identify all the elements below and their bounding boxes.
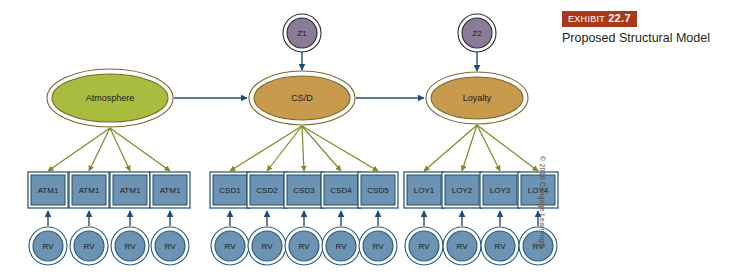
loading-arrow [302, 126, 304, 171]
loading-arrow [89, 128, 110, 171]
exhibit-figure: ATM1ATM1ATM1ATM1CSD1CSD2CSD3CSD4CSD5LOY1… [0, 0, 730, 278]
indicator-csd4: CSD4 [321, 172, 361, 208]
indicator-loy4: LOY4 [518, 172, 558, 208]
exhibit-header: EXHIBIT 22.7 Proposed Structural Model [562, 8, 722, 46]
construct-loyalty: Loyalty [426, 72, 528, 124]
residual-label: RV [84, 242, 96, 251]
residual-circle: RV [211, 227, 249, 265]
residual-label: RV [457, 242, 469, 251]
residual-circle: RV [111, 227, 149, 265]
residual-circle: RV [322, 227, 360, 265]
residual-label: RV [43, 242, 55, 251]
indicator-csd2: CSD2 [247, 172, 287, 208]
loading-arrow [302, 126, 341, 171]
loading-arrow [230, 126, 302, 171]
indicator-label: CSD3 [293, 186, 315, 195]
residual-circles: RVRVRVRVRVRVRVRVRVRVRVRVRV [29, 227, 557, 265]
indicator-label: CSD2 [256, 186, 278, 195]
indicator-label: LOY2 [452, 186, 473, 195]
disturbance-arrows [302, 52, 477, 71]
loading-arrow [477, 125, 500, 171]
indicator-label: CSD5 [367, 186, 389, 195]
residual-circle: RV [248, 227, 286, 265]
residual-label: RV [125, 242, 137, 251]
indicator-label: LOY1 [414, 186, 435, 195]
residual-label: RV [336, 242, 348, 251]
loading-arrow [302, 126, 378, 171]
indicator-label: ATM1 [160, 186, 181, 195]
disturbance-label: Z1 [297, 29, 307, 38]
loading-arrow [267, 126, 302, 171]
residual-circle: RV [519, 227, 557, 265]
loading-arrow [110, 128, 170, 171]
indicator-label: CSD1 [219, 186, 241, 195]
residual-label: RV [495, 242, 507, 251]
indicator-label: ATM1 [79, 186, 100, 195]
indicator-atm1: ATM1 [28, 172, 68, 208]
residual-circle: RV [481, 227, 519, 265]
residual-circle: RV [29, 227, 67, 265]
loading-arrow [477, 125, 538, 171]
exhibit-badge-number: 22.7 [608, 12, 631, 24]
residual-label: RV [165, 242, 177, 251]
indicator-label: LOY3 [490, 186, 511, 195]
indicator-label: ATM1 [38, 186, 59, 195]
residual-arrows [48, 211, 538, 226]
latent-construct-ellipses: AtmosphereCS/DLoyalty [47, 69, 528, 127]
indicator-loy1: LOY1 [404, 172, 444, 208]
indicator-csd5: CSD5 [358, 172, 398, 208]
disturbance-z2: Z2 [458, 14, 496, 52]
indicator-loy2: LOY2 [442, 172, 482, 208]
construct-csd: CS/D [249, 71, 355, 125]
loading-arrow [48, 128, 110, 171]
construct-label: CS/D [291, 93, 313, 103]
residual-label: RV [419, 242, 431, 251]
residual-label: RV [225, 242, 237, 251]
residual-circle: RV [285, 227, 323, 265]
residual-circle: RV [151, 227, 189, 265]
residual-label: RV [262, 242, 274, 251]
residual-circle: RV [359, 227, 397, 265]
indicator-label: CSD4 [330, 186, 352, 195]
residual-circle: RV [405, 227, 443, 265]
indicator-loy3: LOY3 [480, 172, 520, 208]
residual-circle: RV [70, 227, 108, 265]
exhibit-badge-word: EXHIBIT [568, 14, 605, 24]
construct-label: Atmosphere [86, 93, 135, 103]
indicator-atm1: ATM1 [150, 172, 190, 208]
copyright-notice: © 2016 Cengage Learning® [539, 156, 546, 248]
indicator-label: ATM1 [120, 186, 141, 195]
residual-label: RV [373, 242, 385, 251]
exhibit-caption: Proposed Structural Model [562, 31, 722, 46]
indicator-boxes: ATM1ATM1ATM1ATM1CSD1CSD2CSD3CSD4CSD5LOY1… [28, 172, 558, 208]
construct-label: Loyalty [463, 93, 492, 103]
disturbance-circles: Z1Z2 [283, 14, 496, 52]
disturbance-z1: Z1 [283, 14, 321, 52]
construct-atmosphere: Atmosphere [47, 69, 173, 127]
residual-circle: RV [443, 227, 481, 265]
residual-label: RV [299, 242, 311, 251]
disturbance-label: Z2 [472, 29, 482, 38]
indicator-atm1: ATM1 [69, 172, 109, 208]
exhibit-badge: EXHIBIT 22.7 [562, 11, 637, 27]
indicator-csd1: CSD1 [210, 172, 250, 208]
indicator-atm1: ATM1 [110, 172, 150, 208]
indicator-csd3: CSD3 [284, 172, 324, 208]
measurement-loading-arrows [48, 125, 538, 171]
